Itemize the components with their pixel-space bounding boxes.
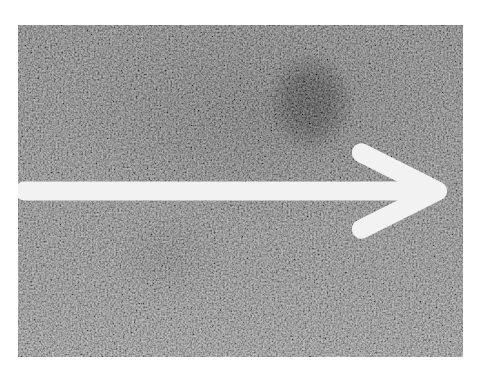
- arrow-right-icon: [18, 25, 463, 357]
- micrograph-image: [18, 25, 463, 357]
